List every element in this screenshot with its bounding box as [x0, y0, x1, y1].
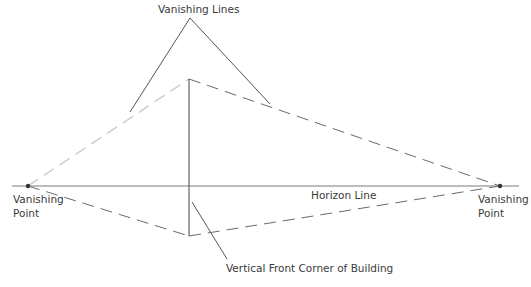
- vertical-corner-leader: [192, 202, 227, 259]
- left-vanishing-point: [26, 184, 30, 188]
- vanishing-lines-label: Vanishing Lines: [158, 3, 239, 16]
- right-vanishing-point-label-2: Point: [478, 207, 504, 220]
- left-vanishing-point-label-2: Point: [13, 207, 39, 220]
- vanishing-lines-leader: [130, 18, 270, 112]
- left-vanishing-point-label-1: Vanishing: [13, 193, 64, 206]
- horizon-line-label: Horizon Line: [311, 189, 376, 202]
- two-point-perspective-diagram: [0, 0, 531, 287]
- right-vanishing-point-label-1: Vanishing: [478, 193, 529, 206]
- vanishing-line-top-left: [28, 79, 189, 186]
- vertical-corner-label: Vertical Front Corner of Building: [226, 262, 393, 275]
- right-vanishing-point: [498, 184, 502, 188]
- vanishing-line-top-right: [189, 79, 500, 186]
